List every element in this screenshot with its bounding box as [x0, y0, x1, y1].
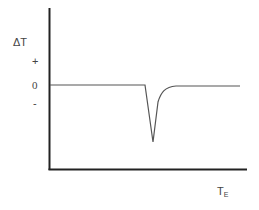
y-tick-zero: 0 — [32, 80, 38, 91]
y-axis-label: ΔT — [13, 37, 27, 48]
dta-curve — [50, 85, 240, 142]
x-axis-label: TE — [217, 186, 228, 200]
y-tick-plus: + — [32, 56, 38, 67]
y-tick-minus: - — [33, 98, 37, 109]
chart-canvas — [0, 0, 259, 210]
x-axis-label-subscript: E — [224, 191, 229, 198]
x-axis-label-main: T — [217, 185, 224, 197]
